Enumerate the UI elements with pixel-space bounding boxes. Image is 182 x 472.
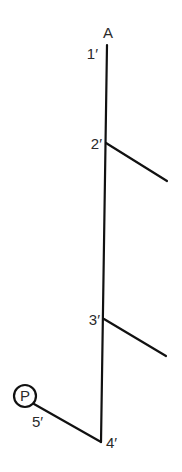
label-p: P [20,387,30,404]
label-point-3: 3′ [89,311,100,328]
segment-4-to-p [34,404,101,442]
label-point-5: 5′ [32,413,43,430]
branch-line-2 [106,143,167,181]
branch-line-3 [104,319,166,356]
main-vertical-line [101,45,107,442]
label-a: A [103,24,113,41]
label-point-1: 1′ [87,45,98,62]
diagram-canvas: A P 1′ 2′ 3′ 4′ 5′ [0,0,182,472]
label-point-2: 2′ [91,135,102,152]
label-point-4: 4′ [106,434,117,451]
